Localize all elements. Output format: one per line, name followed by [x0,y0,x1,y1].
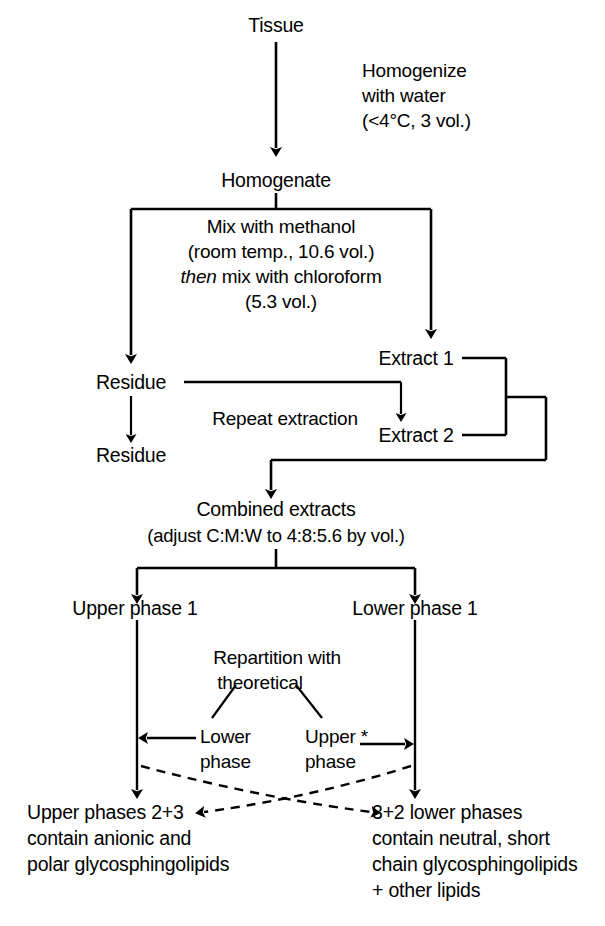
annotation-mix-line2: (room temp., 10.6 vol.) [188,239,375,264]
node-homogenate: Homogenate [221,168,331,193]
outcome-right-line2: contain neutral, short [372,826,550,851]
node-combined-extracts: Combined extracts [196,497,355,522]
annotation-homogenize-line2: with water [362,83,446,108]
annotation-mix-then: then [180,266,216,287]
annotation-repartition-line1: Repartition with [213,645,341,670]
node-upper-phase-1: Upper phase 1 [72,596,197,621]
outcome-right-line4: + other lipids [372,878,480,903]
annotation-upper-phase-line1: Upper * [305,724,368,749]
annotation-homogenize-line1: Homogenize [362,58,467,83]
outcome-left-line3: polar glycosphingolipids [27,852,229,877]
node-extract-2: Extract 2 [378,423,453,448]
node-lower-phase-1: Lower phase 1 [352,596,477,621]
flowchart-connector-layer [0,0,605,926]
node-extract-1: Extract 1 [378,346,453,371]
node-combined-extracts-detail: (adjust C:M:W to 4:8:5.6 by vol.) [147,523,405,548]
annotation-mix-line1: Mix with methanol [207,214,356,239]
flowchart-diagram: Tissue Homogenize with water (<4°C, 3 vo… [0,0,605,926]
outcome-left-line1: Upper phases 2+3 [27,800,184,825]
annotation-mix-line3: then mix with chloroform [180,264,381,289]
annotation-upper-phase-line2: phase [305,749,356,774]
annotation-lower-phase-line2: phase [200,749,251,774]
annotation-lower-phase-line1: Lower [200,724,251,749]
node-tissue: Tissue [248,13,304,38]
annotation-repeat-extraction: Repeat extraction [212,406,358,431]
node-residue-1: Residue [96,370,166,395]
outcome-left-line2: contain anionic and [27,826,191,851]
node-residue-2: Residue [96,443,166,468]
annotation-repartition-line2: theoretical [217,670,302,695]
annotation-mix-line3-rest: mix with chloroform [217,266,382,287]
outcome-right-line1: 3+2 lower phases [372,800,522,825]
outcome-right-line3: chain glycosphingolipids [372,852,578,877]
annotation-mix-line4: (5.3 vol.) [245,289,317,314]
annotation-homogenize-line3: (<4°C, 3 vol.) [362,108,471,133]
